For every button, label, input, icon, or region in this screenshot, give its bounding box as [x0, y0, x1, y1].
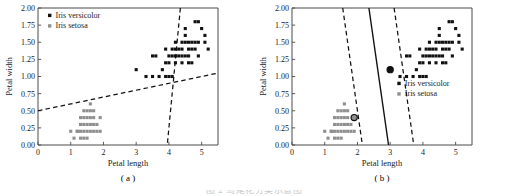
data-point-versicolor — [457, 41, 460, 44]
data-point-setosa — [89, 130, 92, 133]
data-point-versicolor — [200, 27, 203, 30]
legend-b: Iris versicolorIris setosa — [397, 79, 449, 99]
data-point-versicolor — [180, 54, 183, 57]
data-point-setosa — [353, 130, 356, 133]
data-point-versicolor — [425, 54, 428, 57]
x-tick-label: 2 — [101, 148, 105, 157]
data-point-setosa — [349, 123, 352, 126]
y-tick-label: 0.25 — [275, 124, 289, 133]
support-vectors-b — [351, 67, 393, 121]
line-margin-upper — [394, 8, 414, 145]
chart-panel-b: 0123450.000.250.500.751.001.251.501.752.… — [254, 0, 508, 196]
data-point-setosa — [343, 123, 346, 126]
data-point-versicolor — [154, 54, 157, 57]
data-point-setosa — [333, 137, 336, 140]
legend-swatch-versicolor — [397, 82, 400, 85]
data-point-versicolor — [151, 54, 154, 57]
data-point-versicolor — [184, 54, 187, 57]
data-point-versicolor — [457, 34, 460, 37]
data-point-versicolor — [174, 61, 177, 64]
data-point-setosa — [99, 116, 102, 119]
data-point-versicolor — [405, 75, 408, 78]
line-boundary-shallow — [38, 73, 218, 111]
data-point-versicolor — [405, 54, 408, 57]
data-point-setosa — [82, 130, 85, 133]
y-tick-label: 1.00 — [21, 72, 35, 81]
data-point-setosa — [82, 116, 85, 119]
data-point-versicolor — [451, 20, 454, 23]
legend-a: Iris versicolorIris setosa — [48, 11, 100, 31]
y-tick-label: 1.00 — [275, 72, 289, 81]
data-point-setosa — [95, 130, 98, 133]
data-point-versicolor — [164, 75, 167, 78]
data-point-setosa — [69, 130, 72, 133]
data-point-versicolor — [438, 54, 441, 57]
data-point-versicolor — [434, 48, 437, 51]
data-point-versicolor — [438, 41, 441, 44]
y-tick-label: 2.00 — [275, 4, 289, 13]
data-point-versicolor — [174, 48, 177, 51]
x-tick-label: 4 — [167, 148, 171, 157]
data-point-setosa — [343, 102, 346, 105]
data-point-versicolor — [444, 41, 447, 44]
data-point-versicolor — [187, 48, 190, 51]
data-point-versicolor — [197, 41, 200, 44]
data-point-versicolor — [207, 48, 210, 51]
data-point-setosa — [323, 130, 326, 133]
data-point-versicolor — [431, 48, 434, 51]
y-axis-title: Petal width — [258, 57, 268, 96]
data-point-versicolor — [174, 41, 177, 44]
data-point-versicolor — [161, 68, 164, 71]
x-tick-label: 4 — [421, 148, 425, 157]
data-point-versicolor — [167, 75, 170, 78]
data-point-versicolor — [164, 61, 167, 64]
decision-lines-b — [343, 8, 414, 145]
data-point-versicolor — [180, 48, 183, 51]
data-point-versicolor — [194, 48, 197, 51]
data-point-versicolor — [151, 75, 154, 78]
data-point-setosa — [79, 116, 82, 119]
data-point-versicolor — [180, 61, 183, 64]
data-point-versicolor — [180, 41, 183, 44]
chart-panel-a: 0123450.000.250.500.751.001.251.501.752.… — [0, 0, 254, 196]
data-point-setosa — [326, 137, 329, 140]
data-point-setosa — [76, 130, 79, 133]
data-point-versicolor — [441, 41, 444, 44]
data-point-versicolor — [444, 61, 447, 64]
data-point-versicolor — [171, 48, 174, 51]
y-tick-label: 1.50 — [275, 38, 289, 47]
data-point-versicolor — [184, 41, 187, 44]
data-point-versicolor — [444, 48, 447, 51]
scatter-plot-b: 0123450.000.250.500.751.001.251.501.752.… — [254, 0, 508, 196]
data-point-versicolor — [448, 20, 451, 23]
data-point-versicolor — [197, 20, 200, 23]
legend-label-setosa: Iris setosa — [56, 21, 89, 30]
data-point-setosa — [333, 130, 336, 133]
data-point-setosa — [340, 137, 343, 140]
data-point-versicolor — [187, 54, 190, 57]
data-point-setosa — [336, 109, 339, 112]
data-point-setosa — [333, 123, 336, 126]
data-points-a — [69, 20, 210, 140]
data-point-versicolor — [177, 48, 180, 51]
y-tick-label: 2.00 — [21, 4, 35, 13]
data-point-versicolor — [441, 48, 444, 51]
x-tick-label: 0 — [290, 148, 294, 157]
figure-container: 0123450.000.250.500.751.001.251.501.752.… — [0, 0, 508, 196]
data-point-setosa — [340, 130, 343, 133]
data-point-setosa — [86, 116, 89, 119]
y-axis-title: Petal width — [4, 57, 14, 96]
data-point-versicolor — [190, 48, 193, 51]
figure-caption-strip: 图 2 鸢尾花分类示意图 — [0, 190, 508, 196]
y-tick-label: 0.50 — [275, 107, 289, 116]
y-tick-label: 1.25 — [21, 55, 35, 64]
data-point-versicolor — [434, 54, 437, 57]
figure-caption: 图 2 鸢尾花分类示意图 — [206, 190, 302, 196]
data-point-setosa — [99, 130, 102, 133]
data-point-setosa — [92, 123, 95, 126]
data-point-versicolor — [461, 48, 464, 51]
data-point-versicolor — [431, 54, 434, 57]
data-point-setosa — [340, 123, 343, 126]
data-point-versicolor — [194, 20, 197, 23]
legend-label-setosa: Iris setosa — [405, 89, 438, 98]
